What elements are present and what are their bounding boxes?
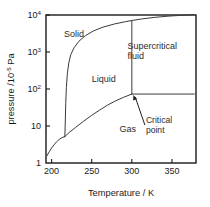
y-axis-title-tail: Pa: [6, 53, 16, 68]
y-tick-exponent: 2: [38, 83, 42, 90]
y-axis-title-base: 10: [6, 73, 16, 83]
x-tick-label-350: 350: [164, 166, 179, 176]
y-tick-label-1: 1: [36, 158, 41, 168]
region-label-solid: Solid: [64, 29, 84, 39]
y-tick-mantissa: 1: [36, 158, 41, 168]
x-axis-title-unit: K: [148, 188, 155, 198]
critical-point-label-line1: Critical: [146, 115, 172, 125]
y-tick-exponent: 4: [38, 9, 42, 16]
phase-diagram-figure: 200250300350 110102103104 Solid Liquid G…: [0, 0, 210, 207]
region-label-supercritical-fluid-line2: fluid: [127, 51, 144, 61]
x-axis-title-name: Temperature: [88, 188, 143, 198]
critical-point-label-line2: point: [146, 125, 165, 135]
region-label-liquid: Liquid: [92, 74, 116, 84]
y-tick-mantissa: 10: [28, 10, 38, 20]
phase-diagram-chart: 200250300350 110102103104 Solid Liquid G…: [0, 0, 210, 207]
x-tick-label-200: 200: [44, 166, 59, 176]
x-tick-label-250: 250: [84, 166, 99, 176]
y-tick-mantissa: 10: [31, 121, 41, 131]
y-tick-mantissa: 10: [28, 84, 38, 94]
y-axis-title-name: pressure: [6, 86, 16, 125]
y-axis-title: pressure /10-5 Pa: [5, 53, 16, 125]
y-tick-label-10: 10: [31, 121, 41, 131]
x-tick-label-300: 300: [124, 166, 139, 176]
y-tick-mantissa: 10: [28, 47, 38, 57]
region-label-gas: Gas: [120, 124, 137, 134]
y-tick-exponent: 3: [38, 46, 42, 53]
x-axis-title: Temperature / K: [88, 188, 155, 198]
region-label-supercritical-fluid-line1: Supercritical: [127, 41, 177, 51]
